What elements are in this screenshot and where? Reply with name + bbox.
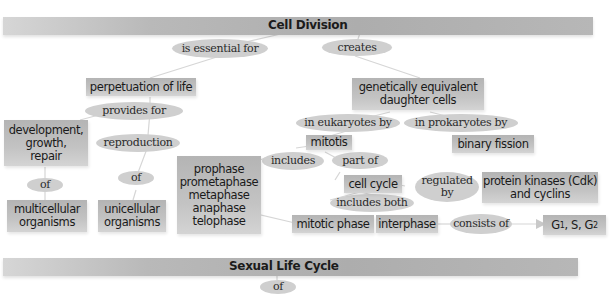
- section-title-cell-division: Cell Division: [268, 18, 348, 32]
- concept-mitotis: mitotis: [306, 135, 352, 150]
- g2-subscript: 2: [593, 219, 598, 232]
- link-regulated-by: regulated by: [415, 172, 479, 202]
- concept-map: Cell Division Sexual Life Cycle is essen…: [0, 0, 612, 294]
- concept-cell-cycle: cell cycle: [344, 175, 402, 193]
- link-of-bottom: of: [260, 280, 296, 294]
- concept-perpetuation-of-life: perpetuation of life: [86, 78, 196, 96]
- concept-g-phases: G1, S, G2: [543, 215, 606, 235]
- concept-interphase: interphase: [376, 215, 438, 233]
- link-creates: creates: [322, 39, 392, 56]
- section-bar-cell-division: Cell Division: [3, 17, 593, 35]
- link-includes: includes: [262, 152, 324, 170]
- link-includes-both: includes both: [330, 194, 414, 212]
- link-is-essential-for: is essential for: [172, 39, 268, 58]
- link-reproduction: reproduction: [96, 134, 180, 152]
- concept-development: development, growth, repair: [4, 120, 88, 166]
- link-provides-for: provides for: [85, 102, 183, 120]
- concept-unicellular: unicellular organisms: [98, 200, 166, 232]
- link-of-left: of: [27, 178, 63, 192]
- link-consists-of: consists of: [450, 214, 512, 234]
- s-g2-label: , S, G: [565, 219, 593, 232]
- link-in-eukaryotes-by: in eukaryotes by: [296, 114, 400, 132]
- link-part-of: part of: [332, 152, 388, 169]
- concept-mitosis-phases: prophase prometaphase metaphase anaphase…: [177, 156, 261, 234]
- g1-label: G: [551, 219, 560, 232]
- concept-daughter-cells: genetically equivalent daughter cells: [352, 78, 484, 110]
- link-in-prokaryotes-by: in prokaryotes by: [404, 114, 518, 132]
- concept-mitotic-phase: mitotic phase: [292, 215, 374, 233]
- concept-protein-kinases: protein kinases (Cdk) and cyclins: [482, 172, 598, 203]
- concept-binary-fission: binary fission: [452, 135, 534, 153]
- section-title-sexual-life-cycle: Sexual Life Cycle: [229, 259, 339, 273]
- concept-multicellular: multicellular organisms: [7, 200, 87, 232]
- link-of-mid: of: [118, 171, 154, 185]
- section-bar-sexual-life-cycle: Sexual Life Cycle: [3, 258, 578, 276]
